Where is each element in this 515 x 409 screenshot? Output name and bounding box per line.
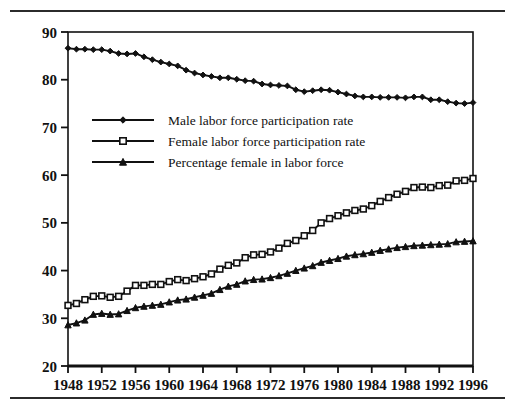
series-marker xyxy=(403,188,409,194)
series-marker xyxy=(377,198,383,204)
series-marker xyxy=(369,203,375,209)
series-marker xyxy=(301,89,307,95)
x-tick-label: 1960 xyxy=(154,377,184,393)
series-marker xyxy=(116,293,122,299)
series-marker xyxy=(318,87,324,93)
series-marker xyxy=(470,100,476,106)
series-marker xyxy=(360,94,366,100)
series-marker xyxy=(200,274,206,280)
series-layer xyxy=(65,45,476,328)
series-marker xyxy=(369,94,375,100)
series-marker xyxy=(293,238,299,244)
series-marker xyxy=(284,240,290,246)
series-marker xyxy=(310,88,316,94)
series-marker xyxy=(209,271,215,277)
series-marker xyxy=(327,87,333,93)
series-marker xyxy=(403,95,409,101)
series-marker xyxy=(133,51,139,57)
legend-marker-open-square-icon xyxy=(120,138,126,144)
series-marker xyxy=(234,76,240,82)
series-1 xyxy=(65,45,476,106)
series-marker xyxy=(124,288,130,294)
series-marker xyxy=(436,97,442,103)
series-marker xyxy=(318,220,324,226)
y-tick-label: 30 xyxy=(42,311,57,327)
x-tick-label: 1988 xyxy=(391,377,421,393)
legend-item-2: Female labor force participation rate xyxy=(92,134,365,149)
series-marker xyxy=(149,57,155,63)
axes-layer: 2030405060708090194819521956196019641968… xyxy=(42,25,489,394)
series-marker xyxy=(377,94,383,100)
legend-label: Percentage female in labor force xyxy=(168,155,343,170)
x-tick-label: 1952 xyxy=(87,377,117,393)
x-tick-label: 1996 xyxy=(458,377,489,393)
series-marker xyxy=(470,176,476,182)
series-marker xyxy=(116,51,122,57)
series-marker xyxy=(276,245,282,251)
series-marker xyxy=(462,101,468,107)
series-marker xyxy=(166,61,172,67)
series-marker xyxy=(225,262,231,268)
y-tick-label: 90 xyxy=(42,25,57,41)
x-tick-label: 1992 xyxy=(424,377,454,393)
series-marker xyxy=(141,54,147,60)
series-marker xyxy=(99,293,105,299)
legend-item-1: Male labor force participation rate xyxy=(92,113,353,128)
series-marker xyxy=(124,51,130,57)
top-horizontal-rule xyxy=(10,10,505,12)
series-marker xyxy=(192,70,198,76)
series-marker xyxy=(436,183,442,189)
series-marker xyxy=(453,100,459,106)
series-marker xyxy=(352,93,358,99)
series-marker xyxy=(217,266,223,272)
series-marker xyxy=(90,293,96,299)
series-marker xyxy=(242,78,248,84)
line-chart: 2030405060708090194819521956196019641968… xyxy=(0,0,515,409)
series-marker xyxy=(65,303,71,309)
series-marker xyxy=(183,278,189,284)
series-marker xyxy=(200,72,206,78)
series-marker xyxy=(74,301,80,307)
series-marker xyxy=(428,97,434,103)
series-marker xyxy=(251,78,257,84)
series-marker xyxy=(284,83,290,89)
series-marker xyxy=(293,87,299,93)
legend-label: Female labor force participation rate xyxy=(168,134,365,149)
series-line xyxy=(68,178,473,305)
y-tick-label: 60 xyxy=(42,168,57,184)
legend-layer: Male labor force participation rateFemal… xyxy=(92,113,365,170)
y-tick-label: 80 xyxy=(42,72,57,88)
series-marker xyxy=(74,46,80,52)
series-marker xyxy=(90,47,96,53)
x-tick-label: 1976 xyxy=(289,377,320,393)
series-marker xyxy=(327,216,333,222)
series-marker xyxy=(251,252,257,258)
series-marker xyxy=(301,233,307,239)
series-marker xyxy=(259,251,265,257)
series-marker xyxy=(259,81,265,87)
series-marker xyxy=(158,59,164,65)
series-marker xyxy=(360,206,366,212)
x-tick-label: 1972 xyxy=(256,377,286,393)
series-marker xyxy=(386,94,392,100)
bottom-horizontal-rule xyxy=(10,397,505,399)
series-marker xyxy=(192,276,198,282)
series-marker xyxy=(82,297,88,303)
y-tick-label: 50 xyxy=(42,215,57,231)
series-marker xyxy=(82,46,88,52)
series-marker xyxy=(428,185,434,191)
legend-marker-diamond-icon xyxy=(120,117,126,123)
series-marker xyxy=(99,47,105,53)
series-marker xyxy=(344,210,350,216)
series-marker xyxy=(217,75,223,81)
series-marker xyxy=(242,255,248,261)
series-marker xyxy=(352,208,358,214)
series-marker xyxy=(149,282,155,288)
x-tick-label: 1964 xyxy=(188,377,219,393)
x-tick-label: 1984 xyxy=(357,377,388,393)
series-marker xyxy=(107,294,113,300)
series-marker xyxy=(310,228,316,234)
series-marker xyxy=(344,91,350,97)
series-marker xyxy=(268,249,274,255)
series-marker xyxy=(335,89,341,95)
